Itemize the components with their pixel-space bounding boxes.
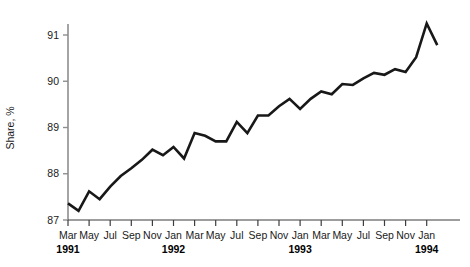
x-tick-label: Mar	[312, 229, 331, 241]
data-series	[68, 23, 437, 210]
x-tick-label: Jul	[357, 229, 370, 241]
x-tick-label: Nov	[396, 229, 415, 241]
x-tick-label: Sep	[249, 229, 268, 241]
y-tick-label: 90	[47, 75, 59, 87]
x-tick-label: Mar	[59, 229, 78, 241]
x-tick-label: Sep	[375, 229, 394, 241]
x-tick-label: Jul	[230, 229, 243, 241]
share-percent-line-chart: 8788899091 MarMayJulSepNovJanMarMayJulSe…	[0, 0, 470, 267]
x-tick-label: Jul	[103, 229, 116, 241]
x-tick-label: Jan	[165, 229, 182, 241]
share-series-line	[68, 23, 437, 210]
x-tick-label: Jan	[292, 229, 309, 241]
y-tick-label: 91	[47, 29, 59, 41]
x-tick-label: May	[332, 229, 353, 241]
x-tick-label: May	[79, 229, 100, 241]
y-tick-label: 87	[47, 214, 59, 226]
x-axis-year-label: 1994	[415, 243, 439, 255]
y-tick-label: 89	[47, 121, 59, 133]
x-tick-label: Nov	[270, 229, 289, 241]
x-tick-label: Nov	[143, 229, 162, 241]
x-tick-label: Sep	[122, 229, 141, 241]
y-tick-label: 88	[47, 167, 59, 179]
x-axis-year-label: 1993	[288, 243, 312, 255]
y-axis-title: Share, %	[4, 106, 16, 149]
y-axis: 8788899091	[47, 24, 68, 226]
chart-canvas: 8788899091 MarMayJulSepNovJanMarMayJulSe…	[0, 0, 470, 267]
x-axis-year-label: 1991	[56, 243, 80, 255]
x-axis: MarMayJulSepNovJanMarMayJulSepNovJanMarM…	[59, 220, 460, 241]
x-axis-year-label: 1992	[162, 243, 186, 255]
x-tick-label: Mar	[186, 229, 205, 241]
x-tick-label: May	[206, 229, 227, 241]
x-tick-label: Jan	[418, 229, 435, 241]
